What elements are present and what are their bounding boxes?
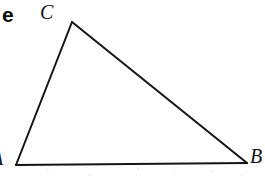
triangle-drawing	[0, 0, 265, 180]
text-fragment-e: e	[2, 4, 14, 25]
vertex-label-a: A	[0, 148, 3, 168]
vertex-label-b: B	[250, 146, 262, 166]
triangle-edge-ac	[16, 22, 72, 165]
triangle-edge-ab	[16, 163, 247, 165]
triangle-edge-cb	[72, 22, 247, 163]
figure-canvas: e C A B	[0, 0, 265, 180]
vertex-label-c: C	[40, 2, 53, 22]
